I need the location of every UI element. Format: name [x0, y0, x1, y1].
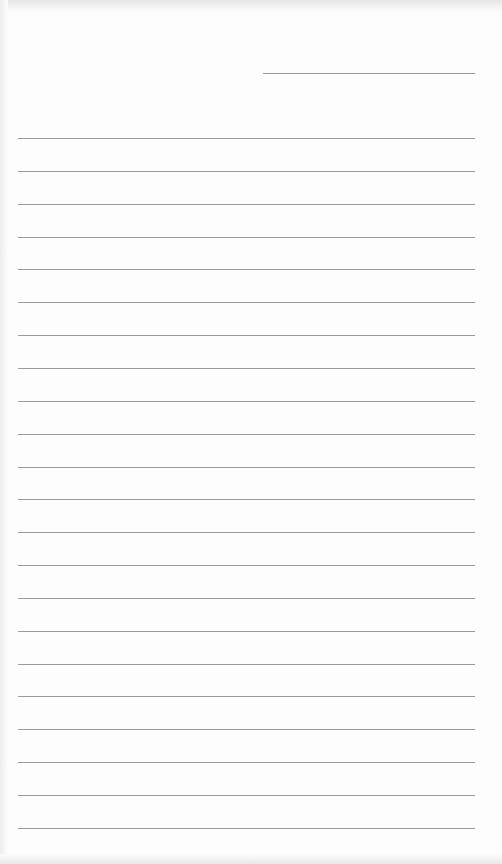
ruled-line [18, 664, 475, 665]
paper-edge-bottom [0, 854, 502, 864]
ruled-line [18, 696, 475, 697]
ruled-line [18, 467, 475, 468]
header-line [263, 73, 475, 74]
ruled-line [18, 499, 475, 500]
ruled-line [18, 401, 475, 402]
ruled-line [18, 729, 475, 730]
ruled-line [18, 532, 475, 533]
ruled-line [18, 171, 475, 172]
ruled-line [18, 204, 475, 205]
ruled-line [18, 795, 475, 796]
ruled-line [18, 335, 475, 336]
ruled-line [18, 368, 475, 369]
ruled-line [18, 828, 475, 829]
ruled-line [18, 565, 475, 566]
ruled-line [18, 762, 475, 763]
ruled-line [18, 598, 475, 599]
ruled-line [18, 302, 475, 303]
paper-edge-top [0, 0, 502, 12]
ruled-line [18, 631, 475, 632]
ruled-line [18, 237, 475, 238]
paper-edge-left [0, 0, 8, 864]
ruled-line [18, 138, 475, 139]
ruled-line [18, 434, 475, 435]
ruled-line [18, 269, 475, 270]
